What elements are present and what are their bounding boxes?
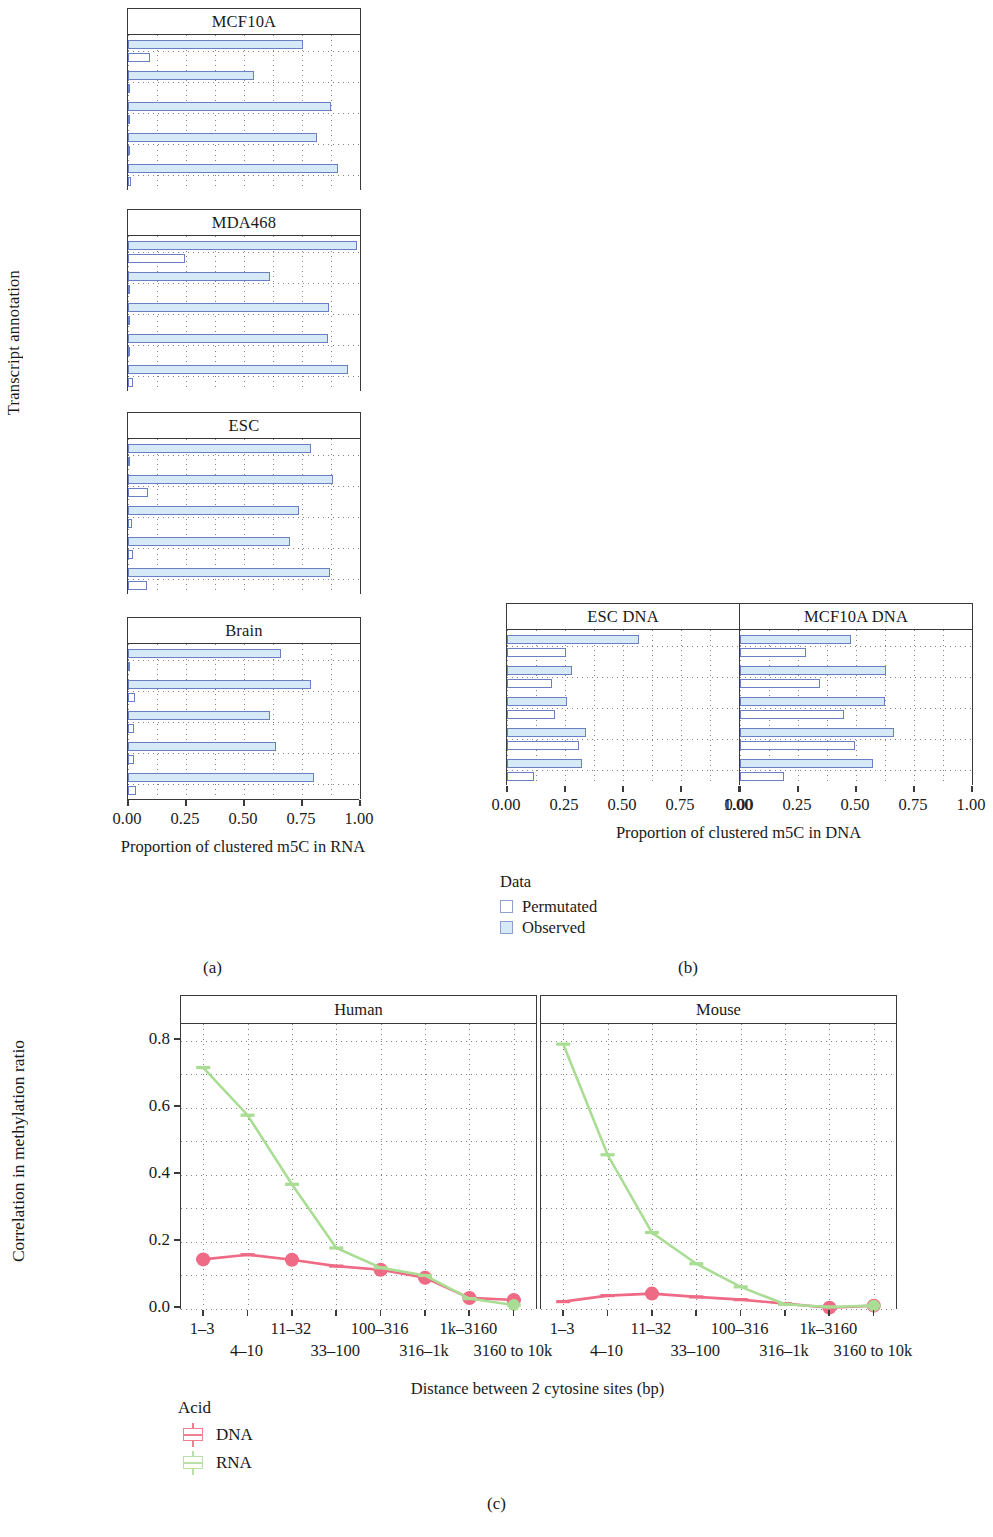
facet-mcf10a: MCF10AsncRNAlncRNA3′UTRCDS5′UTR [127, 8, 361, 190]
facet-title-mda468: MDA468 [212, 213, 276, 233]
facet-strip-mouse: Mouse [541, 996, 896, 1024]
facet-plot-mouse [541, 1024, 896, 1309]
gridline-horizontal [181, 1309, 536, 1310]
facet-plot-human [181, 1024, 536, 1309]
facet-strip-human: Human [181, 996, 536, 1024]
facet-title-brain: Brain [225, 621, 263, 641]
x-tick [622, 786, 624, 792]
y-tick-label-0.8: 0.8 [128, 1029, 170, 1049]
caption-c: (c) [487, 1494, 506, 1514]
bar-permutated-5′UTR [128, 581, 147, 590]
facet-title-mouse: Mouse [696, 1000, 741, 1020]
y-tick-label-0.2: 0.2 [128, 1230, 170, 1250]
legend-item-permutated[interactable]: Permutated [500, 896, 597, 917]
legend-item-observed[interactable]: Observed [500, 917, 597, 938]
bar-observed-CDS [507, 728, 586, 737]
x-tick-label-100–316: 100–316 [351, 1319, 409, 1339]
x-tick [913, 786, 915, 792]
x-tick [797, 786, 799, 792]
bar-permutated-sncRNA [128, 53, 150, 62]
x-tick [127, 800, 129, 806]
gridline-horizontal [541, 1309, 896, 1310]
x-tick-label-316–1k: 316–1k [399, 1341, 449, 1361]
bar-observed-3′UTR [128, 506, 299, 515]
x-tick [740, 1310, 742, 1316]
facet-plot-mcf10a: sncRNAlncRNA3′UTRCDS5′UTR [128, 35, 360, 190]
x-tick [607, 1310, 609, 1316]
caption-a: (a) [203, 958, 222, 978]
legend-swatch-permutated-icon [500, 900, 513, 913]
facet-title-mcf10a-dna: MCF10A DNA [804, 607, 908, 627]
bar-permutated-3′UTR [740, 710, 844, 719]
x-tick-label-316–1k: 316–1k [759, 1341, 809, 1361]
x-tick [513, 1310, 515, 1316]
gridline-horizontal [507, 708, 739, 709]
gridline-horizontal [507, 646, 739, 647]
bar-observed-3′UTR [128, 102, 331, 111]
legend-boxplot-rna-icon [178, 1450, 208, 1476]
gridline-horizontal [128, 252, 360, 253]
gridline-horizontal [128, 691, 360, 692]
bar-observed-3′UTR [740, 697, 885, 706]
x-tick-label-100–316: 100–316 [711, 1319, 769, 1339]
gridline-horizontal [128, 548, 360, 549]
gridline-vertical [885, 630, 886, 785]
gridline-horizontal [128, 144, 360, 145]
x-tick [468, 1310, 470, 1316]
bar-observed-5′UTR [740, 759, 873, 768]
facet-plot-brain: sncRNAlncRNA3′UTRCDS5′UTR [128, 644, 360, 799]
x-tick-label-1–3: 1–3 [550, 1319, 575, 1339]
legend-acid-title: Acid [178, 1398, 253, 1418]
legend-item-dna[interactable]: DNA [178, 1421, 253, 1449]
bar-observed-lncRNA [128, 272, 270, 281]
x-tick-label-11–32: 11–32 [631, 1319, 672, 1339]
gridline-horizontal [740, 708, 972, 709]
facet-strip-mda468: MDA468 [128, 210, 360, 236]
facet-esc-dna: ESC DNAsncRNAlncRNA3′UTRCDS5′UTR [506, 603, 740, 785]
bar-permutated-sncRNA [507, 648, 566, 657]
x-tick-label-0.75: 0.75 [666, 795, 695, 815]
bar-permutated-lncRNA [128, 84, 130, 93]
x-tick [291, 1310, 293, 1316]
x-tick [506, 786, 508, 792]
bar-permutated-3′UTR [128, 316, 130, 325]
bar-permutated-3′UTR [128, 724, 134, 733]
x-tick [564, 786, 566, 792]
facet-plot-esc: sncRNAlncRNA3′UTRCDS5′UTR [128, 439, 360, 594]
legend-item-rna[interactable]: RNA [178, 1449, 253, 1477]
facet-title-mcf10a: MCF10A [212, 12, 276, 32]
y-tick-label-0.4: 0.4 [128, 1163, 170, 1183]
legend-acid: Acid DNA RNA [178, 1398, 253, 1477]
bar-observed-lncRNA [128, 475, 333, 484]
facet-mcf10a-dna: MCF10A DNA [739, 603, 973, 785]
x-tick [335, 1310, 337, 1316]
x-tick [202, 1310, 204, 1316]
gridline-vertical [331, 644, 332, 799]
panel-a-y-axis-title: Transcript annotation [4, 270, 24, 415]
line-rna [563, 1044, 874, 1307]
gridline-horizontal [128, 753, 360, 754]
x-tick [873, 1310, 875, 1316]
x-tick-label-1.00: 1.00 [345, 809, 374, 829]
facet-strip-esc: ESC [128, 413, 360, 439]
x-tick-label-0.25: 0.25 [171, 809, 200, 829]
x-tick [680, 786, 682, 792]
bar-observed-5′UTR [128, 164, 338, 173]
bar-permutated-lncRNA [128, 488, 148, 497]
y-tick-label-0.0: 0.0 [128, 1297, 170, 1317]
bar-observed-5′UTR [128, 568, 330, 577]
legend-label-observed: Observed [522, 918, 585, 938]
gridline-horizontal [740, 677, 972, 678]
bar-observed-5′UTR [507, 759, 582, 768]
bar-observed-sncRNA [128, 241, 357, 250]
gridline-horizontal [128, 51, 360, 52]
line-rna [203, 1068, 514, 1305]
bar-observed-lncRNA [128, 680, 311, 689]
x-tick-label-0.50: 0.50 [229, 809, 258, 829]
x-tick-label-0.25: 0.25 [783, 795, 812, 815]
bar-observed-CDS [740, 728, 894, 737]
facet-plot-esc-dna: sncRNAlncRNA3′UTRCDS5′UTR [507, 630, 739, 785]
gridline-horizontal [128, 175, 360, 176]
line-series-mouse [541, 1024, 896, 1309]
x-tick [828, 1310, 830, 1316]
